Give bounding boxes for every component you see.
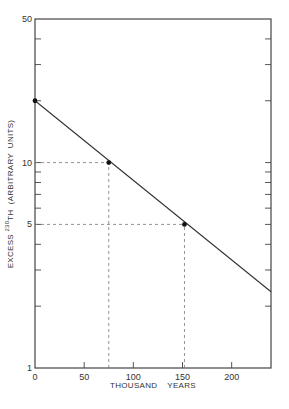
y-axis-title-superscript: 230 [4,220,10,231]
x-tick-label: 200 [224,372,239,382]
y-tick-label: 5 [27,219,32,229]
y-axis-title: EXCESS 230TH (ARBITRARY UNITS) [4,120,15,269]
y-axis-title-suffix: TH (ARBITRARY UNITS) [6,120,15,221]
x-tick-label: 0 [32,372,37,382]
data-point-marker [182,222,187,227]
data-series [35,101,271,292]
decay-line [35,101,271,292]
plot-frame [35,19,271,368]
plot-area [35,19,271,368]
decay-chart: 050100150200151050 THOUSAND YEARS EXCESS… [0,0,289,409]
reference-lines [35,163,184,368]
data-point-marker [106,160,111,165]
y-tick-label: 10 [22,158,32,168]
y-tick-label: 1 [27,363,32,373]
x-tick-label: 50 [79,372,89,382]
data-point-marker [33,98,38,103]
y-axis-ticks [35,39,271,306]
y-tick-label: 50 [22,14,32,24]
y-axis-title-prefix: EXCESS [6,232,15,269]
x-axis-title: THOUSAND YEARS [110,381,196,390]
tick-labels: 050100150200151050 [22,14,239,382]
x-axis-ticks [84,362,232,368]
